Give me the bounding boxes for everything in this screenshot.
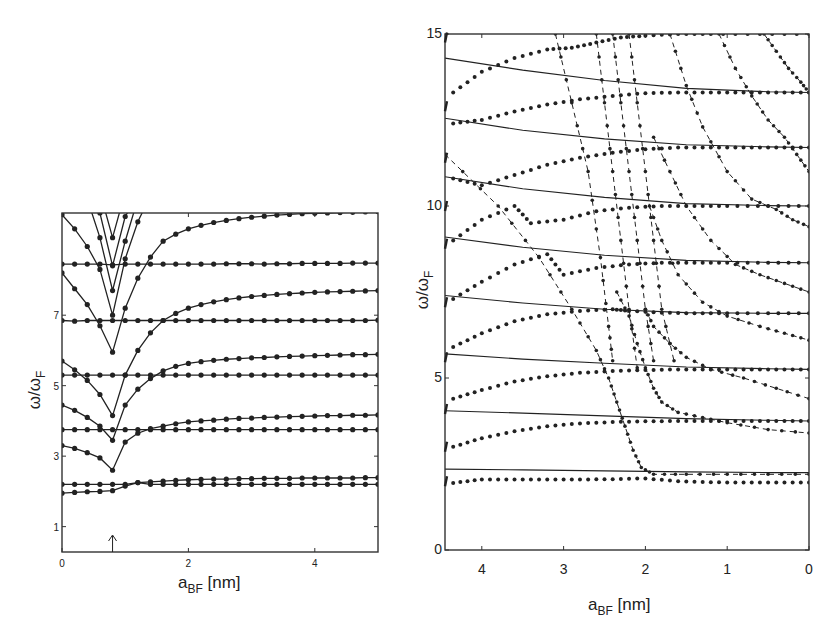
data-point [135, 348, 140, 353]
data-point [766, 146, 770, 150]
data-point [458, 342, 462, 346]
data-point [300, 261, 305, 266]
data-point [692, 311, 696, 315]
data-point [148, 193, 153, 198]
data-point [537, 50, 541, 54]
data-point [513, 379, 517, 383]
data-point [325, 482, 330, 487]
data-point [701, 364, 705, 368]
data-point [363, 260, 368, 265]
data-point [578, 156, 582, 160]
data-point [451, 297, 455, 301]
data-point [701, 301, 705, 305]
data-point [249, 372, 254, 377]
data-point [135, 431, 140, 436]
data-point [135, 276, 140, 281]
data-point [635, 342, 639, 346]
y-tick-label: 15 [426, 25, 442, 41]
data-point [545, 47, 549, 51]
data-point [553, 477, 557, 481]
data-point [529, 221, 533, 225]
data-point [619, 308, 623, 312]
data-point [72, 482, 77, 487]
data-point [646, 313, 650, 317]
data-point [513, 262, 517, 266]
data-point [619, 420, 623, 424]
data-point [537, 104, 541, 108]
data-point [504, 382, 508, 386]
data-point [451, 121, 455, 125]
data-point [777, 130, 781, 134]
data-point [97, 323, 102, 328]
data-point [725, 261, 729, 265]
data-point [123, 239, 128, 244]
data-point [652, 419, 656, 423]
data-point [287, 291, 292, 296]
data-point [796, 220, 800, 224]
data-point [198, 418, 203, 423]
data-point [458, 394, 462, 398]
data-point [586, 421, 590, 425]
data-point [148, 479, 153, 484]
data-point [135, 196, 140, 201]
data-point [631, 448, 635, 452]
data-point [337, 289, 342, 294]
data-point [337, 318, 342, 323]
data-point [663, 158, 667, 162]
data-point [521, 170, 525, 174]
data-point [173, 372, 178, 377]
data-point [795, 153, 799, 157]
x-tick-label: 4 [478, 561, 486, 577]
data-point [635, 262, 639, 266]
data-point [660, 261, 664, 265]
data-point [747, 321, 751, 325]
data-point [249, 427, 254, 432]
data-point [644, 468, 648, 472]
data-point [287, 414, 292, 419]
data-point [537, 255, 541, 259]
data-point [668, 419, 672, 423]
data-point [725, 419, 729, 423]
data-point [173, 427, 178, 432]
data-point [627, 477, 631, 481]
series-line [62, 483, 378, 485]
data-point [529, 427, 533, 431]
data-point [604, 302, 608, 306]
data-point [635, 92, 639, 96]
data-point [480, 70, 484, 74]
data-point [649, 319, 653, 323]
data-point [774, 481, 778, 485]
data-point [337, 413, 342, 418]
data-point [599, 256, 603, 260]
data-point [224, 297, 229, 302]
data-point [753, 380, 757, 384]
data-point [363, 318, 368, 323]
data-point [619, 263, 623, 267]
data-point [262, 214, 267, 219]
data-point [679, 193, 683, 197]
data-point [465, 80, 469, 84]
data-point [655, 391, 659, 395]
data-point [709, 305, 713, 309]
data-point [594, 41, 598, 45]
data-point [274, 427, 279, 432]
data-point [325, 427, 330, 432]
data-point [660, 146, 664, 150]
data-point [643, 476, 647, 480]
data-point [300, 211, 305, 216]
data-point [262, 415, 267, 420]
data-point [262, 372, 267, 377]
data-point [123, 439, 128, 444]
data-point [312, 475, 317, 480]
data-point [717, 261, 721, 265]
data-point [780, 429, 784, 433]
data-point [640, 466, 644, 470]
data-point [725, 480, 729, 484]
data-point [638, 350, 642, 354]
data-point [575, 124, 579, 128]
data-point [529, 257, 533, 261]
data-point [774, 49, 778, 53]
data-point [451, 445, 455, 449]
data-point [717, 155, 721, 159]
data-point [513, 56, 517, 60]
